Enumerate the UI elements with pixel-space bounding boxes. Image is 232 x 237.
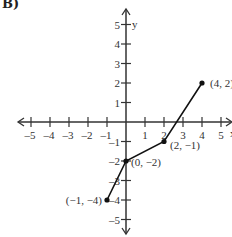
x-tick-label: 5 <box>218 129 224 141</box>
x-tick-label: –2 <box>81 129 93 141</box>
y-tick-label: –1 <box>108 136 120 148</box>
point-label: (0, −2) <box>131 156 161 169</box>
point-label: (2, −1) <box>170 139 200 152</box>
x-tick-label: –4 <box>43 129 56 141</box>
y-tick-label: 2 <box>115 77 121 89</box>
x-tick-label: 1 <box>142 129 148 141</box>
x-tick-label: –5 <box>24 129 37 141</box>
data-point <box>104 197 109 202</box>
y-tick-label: 4 <box>115 38 121 50</box>
y-tick-label: 3 <box>115 58 121 70</box>
coordinate-plane: xy–5–4–3–2–11234554321–1–2–3–4–5(−1, −4)… <box>0 0 232 237</box>
x-tick-label: 4 <box>199 129 205 141</box>
x-tick-label: –3 <box>62 129 75 141</box>
data-point <box>161 139 166 144</box>
y-tick-label: –2 <box>108 155 120 167</box>
data-point <box>199 80 204 85</box>
point-label: (−1, −4) <box>66 194 103 207</box>
point-label: (4, 2) <box>210 77 232 90</box>
y-tick-label: 5 <box>115 19 121 31</box>
y-tick-label: –5 <box>108 214 121 226</box>
x-axis-label: x <box>230 127 232 139</box>
y-axis-label: y <box>132 18 138 30</box>
data-point <box>123 158 128 163</box>
y-tick-label: 1 <box>115 97 121 109</box>
